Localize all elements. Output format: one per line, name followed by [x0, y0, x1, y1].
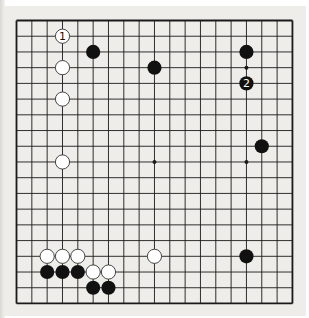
black-stone	[86, 281, 100, 295]
black-stone	[147, 61, 161, 75]
black-stone: 2	[239, 76, 253, 90]
white-stone: 1	[55, 29, 69, 43]
star-point	[244, 66, 248, 70]
black-stone	[255, 139, 269, 153]
star-point	[244, 160, 248, 164]
black-stone	[40, 265, 54, 279]
star-point	[152, 160, 156, 164]
white-stone	[55, 92, 69, 106]
black-stone	[71, 265, 85, 279]
white-stone	[147, 249, 161, 263]
black-stone	[101, 281, 115, 295]
black-stone	[55, 265, 69, 279]
move-number-label: 1	[59, 30, 66, 43]
white-stone	[55, 155, 69, 169]
black-stone	[239, 249, 253, 263]
white-stone	[55, 249, 69, 263]
go-board: 12	[0, 0, 309, 318]
black-stone	[86, 45, 100, 59]
black-stone	[239, 45, 253, 59]
move-number-label: 2	[243, 77, 250, 90]
white-stone	[86, 265, 100, 279]
white-stone	[40, 249, 54, 263]
white-stone	[55, 61, 69, 75]
white-stone	[71, 249, 85, 263]
white-stone	[101, 265, 115, 279]
